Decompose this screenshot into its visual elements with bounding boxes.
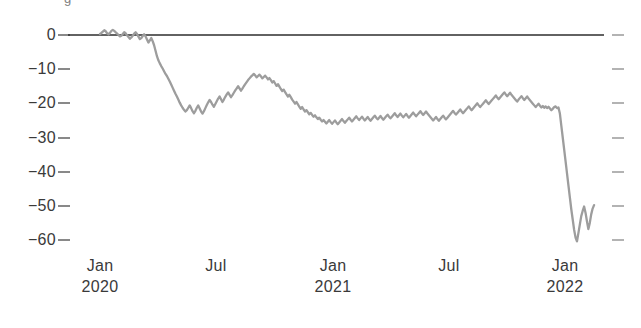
x-tick-year: 2021: [315, 276, 352, 298]
y-axis-right-ticks: [612, 35, 624, 240]
x-tick-month: Jan: [547, 256, 584, 276]
x-tick-year: 2022: [547, 276, 584, 298]
x-tick-jan-2021: Jan 2021: [315, 256, 352, 298]
x-tick-jan-2020: Jan 2020: [82, 256, 119, 298]
x-tick-jan-2022: Jan 2022: [547, 256, 584, 298]
x-tick-jul-2021: Jul: [438, 256, 459, 276]
x-tick-month: Jul: [205, 256, 226, 276]
x-tick-month: Jan: [315, 256, 352, 276]
y-axis-left-ticks: [58, 35, 70, 240]
x-tick-year: 2020: [82, 276, 119, 298]
chart-container: g 0 −10 −20 −30 −40 −50 −60: [0, 0, 641, 328]
x-tick-month: Jan: [82, 256, 119, 276]
x-tick-jul-2020: Jul: [205, 256, 226, 276]
data-series-line: [100, 30, 594, 241]
x-tick-month: Jul: [438, 256, 459, 276]
